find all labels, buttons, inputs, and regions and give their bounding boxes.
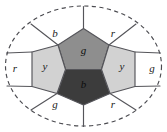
edge-lower-left <box>7 86 32 87</box>
label-inner-right: y <box>119 60 125 72</box>
figure-root: g b y y b r r g g r <box>0 0 167 132</box>
label-outer-bottom-right: r <box>111 98 116 110</box>
label-outer-right: g <box>149 62 155 74</box>
edge-mid-right <box>135 52 161 53</box>
planar-graph-diagram: g b y y b r r g g r <box>0 0 167 132</box>
label-outer-left: r <box>13 62 18 74</box>
label-outer-bottom-left: g <box>52 98 58 110</box>
label-inner-bottom-center: b <box>81 78 87 90</box>
label-inner-left: y <box>42 60 48 72</box>
edge-mid-left <box>7 52 33 53</box>
edge-lower-right <box>135 86 160 87</box>
label-outer-top-right: r <box>111 27 116 39</box>
label-outer-top-left: b <box>52 27 58 39</box>
label-inner-top-center: g <box>81 44 87 56</box>
